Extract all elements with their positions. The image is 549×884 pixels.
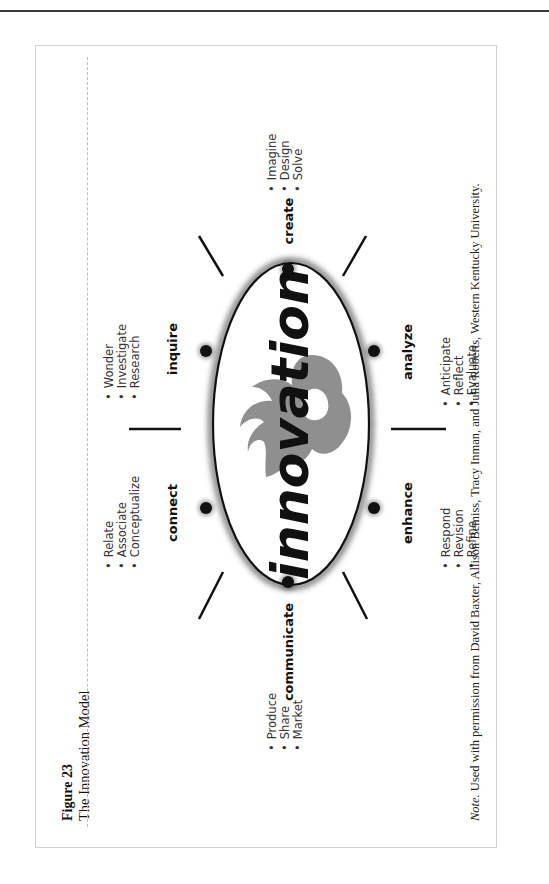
- stage-dot-create: [282, 263, 294, 275]
- page-top-rule: [0, 10, 549, 12]
- innovation-diagram: innovation create analyze e: [36, 44, 498, 847]
- spoke-line: [343, 236, 366, 276]
- stage-label-create: create: [281, 198, 296, 245]
- note-prefix: Note.: [468, 794, 482, 821]
- spoke-line: [199, 572, 223, 619]
- bullets-connect: Relate Associate Conceptualize: [103, 476, 142, 569]
- bullets-inquire: Wonder Investigate Research: [103, 324, 142, 400]
- stage-dot-inquire: [200, 345, 212, 357]
- spoke-line: [343, 572, 367, 619]
- stage-label-analyze: analyze: [400, 324, 415, 380]
- stage-dot-connect: [200, 502, 212, 514]
- bullet-item: Solve: [292, 134, 305, 192]
- stage-dot-analyze: [368, 345, 380, 357]
- figure-note: Note. Used with permission from David Ba…: [468, 183, 483, 821]
- stage-label-connect: connect: [165, 484, 180, 542]
- bullets-create: Imagine Design Solve: [266, 134, 305, 192]
- stage-dot-communicate: [282, 576, 294, 588]
- spoke-line: [199, 236, 223, 276]
- bullet-item: Research: [129, 324, 142, 400]
- figure-box: Figure 23 The Innovation Model innov: [35, 45, 497, 848]
- bullets-communicate: Produce Share Market: [266, 693, 305, 751]
- bullet-item: Conceptualize: [129, 476, 142, 569]
- center-word: innovation: [260, 268, 320, 580]
- stage-label-communicate: communicate: [281, 603, 296, 701]
- figure-frame: Figure 23 The Innovation Model innov: [35, 45, 497, 848]
- bullet-item: Market: [292, 693, 305, 751]
- stage-label-enhance: enhance: [400, 482, 415, 544]
- stage-label-inquire: inquire: [165, 323, 180, 375]
- stage-dot-enhance: [368, 502, 380, 514]
- note-text: Used with permission from David Baxter, …: [468, 183, 482, 794]
